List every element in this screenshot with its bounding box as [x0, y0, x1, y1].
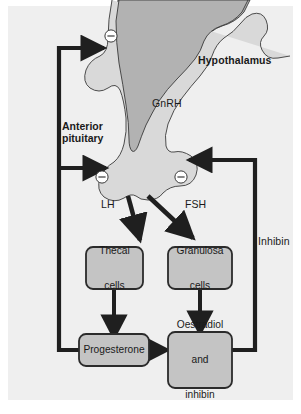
- label-gnrh: GnRH: [152, 98, 182, 110]
- label-anterior-pituitary: Anterior pituitary: [62, 120, 103, 144]
- box-label-granulosa-cells: Granulosa cells: [168, 247, 232, 289]
- box-label-thecal-line2: cells: [99, 280, 130, 292]
- label-fsh: FSH: [185, 199, 206, 211]
- arrow-lh: [128, 196, 140, 240]
- box-label-progesterone-line1: Progesterone: [83, 344, 144, 356]
- box-label-oestradiol-line1: Oestradiol: [177, 319, 223, 331]
- box-label-granulosa-line2: cells: [176, 280, 223, 292]
- minus-sign-pituitary-right: [175, 171, 187, 183]
- box-label-oestradiol-line3: inhibin: [177, 389, 223, 401]
- label-hypothalamus: Hypothalamus: [198, 55, 272, 67]
- box-label-oestradiol-line2: and: [177, 354, 223, 366]
- label-anterior-pituitary-line1: Anterior: [62, 120, 103, 132]
- minus-sign-pituitary-left: [96, 171, 108, 183]
- box-label-progesterone: Progesterone: [79, 334, 149, 366]
- label-lh: LH: [101, 199, 115, 211]
- figure-container: Hypothalamus Anterior pituitary GnRH LH …: [0, 0, 301, 414]
- box-label-oestradiol-and-inhibin: Oestradiol and inhibin: [168, 332, 232, 388]
- box-label-thecal-line1: Thecal: [99, 245, 130, 257]
- label-anterior-pituitary-line2: pituitary: [62, 132, 103, 144]
- box-label-granulosa-line1: Granulosa: [176, 245, 223, 257]
- box-label-thecal-cells: Thecal cells: [86, 247, 143, 289]
- minus-sign-hypothalamus: [105, 30, 117, 42]
- label-inhibin: Inhibin: [258, 236, 290, 248]
